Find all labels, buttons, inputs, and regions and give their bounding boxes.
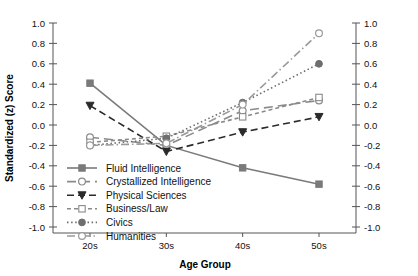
legend-item[interactable]: Fluid Intelligence [67, 163, 181, 174]
data-point-open-circle [87, 142, 94, 149]
data-point-open-square [79, 206, 85, 212]
y-tick-label-left: 0.2 [32, 99, 45, 110]
legend-label: Humanities [106, 231, 156, 242]
chart-legend: Fluid IntelligenceCrystallized Intellige… [67, 163, 211, 242]
legend-item[interactable]: Humanities [67, 231, 156, 242]
legend-item[interactable]: Crystallized Intelligence [67, 176, 211, 187]
y-tick-label-right: -0.2 [364, 140, 380, 151]
legend-item[interactable]: Civics [67, 217, 133, 228]
data-point-open-square [316, 94, 322, 100]
data-point-open-circle [316, 30, 323, 37]
y-tick-label-left: 0.4 [32, 79, 45, 90]
x-tick-label: 50s [311, 240, 327, 251]
y-tick-label-left: 0.6 [32, 58, 45, 69]
y-tick-label-right: 0.0 [364, 120, 377, 131]
x-tick-label: 40s [235, 240, 251, 251]
data-point-filled-square [316, 181, 322, 187]
y-tick-label-left: 0.0 [32, 120, 45, 131]
legend-label: Civics [106, 217, 133, 228]
legend-label: Physical Sciences [106, 190, 187, 201]
data-point-open-circle [79, 233, 86, 240]
y-tick-label-left: 0.8 [32, 38, 45, 49]
legend-label: Crystallized Intelligence [106, 176, 211, 187]
data-point-open-circle [239, 101, 246, 108]
y-tick-label-right: -0.8 [364, 201, 380, 212]
y-tick-label-right: -1.0 [364, 222, 380, 233]
data-point-filled-triangle-down [162, 148, 170, 155]
y-tick-label-right: -0.4 [364, 160, 380, 171]
data-point-filled-square [79, 165, 85, 171]
y-tick-label-right: 0.2 [364, 99, 377, 110]
data-point-open-circle [163, 140, 170, 147]
legend-item[interactable]: Physical Sciences [67, 190, 187, 201]
y-tick-label-left: -0.8 [29, 201, 45, 212]
y-tick-label-left: -1.0 [29, 222, 45, 233]
y-tick-label-right: 0.4 [364, 79, 377, 90]
data-point-open-circle [79, 178, 86, 185]
legend-label: Fluid Intelligence [106, 163, 181, 174]
chart-container: 1.00.80.60.40.20.0-0.2-0.4-0.6-0.8-1.0 1… [0, 0, 418, 276]
series-civics [87, 60, 323, 148]
legend-item[interactable]: Business/Law [67, 203, 168, 214]
series-humanities [87, 30, 323, 149]
data-point-open-square [239, 114, 245, 120]
y-tick-label-right: -0.6 [364, 181, 380, 192]
y-tick-label-left: -0.6 [29, 181, 45, 192]
x-tick-label: 20s [82, 240, 98, 251]
data-point-filled-square [239, 165, 245, 171]
data-point-filled-square [87, 80, 93, 86]
data-point-filled-triangle-down [86, 102, 94, 109]
y-tick-label-right: 1.0 [364, 18, 377, 29]
data-point-filled-circle [79, 219, 86, 226]
x-tick-label: 30s [159, 240, 175, 251]
y-axis-title: Standardized (z) Score [4, 74, 15, 182]
y-tick-label-left: 1.0 [32, 18, 45, 29]
x-axis-title: Age Group [179, 259, 231, 270]
legend-label: Business/Law [106, 203, 168, 214]
line-chart: 1.00.80.60.40.20.0-0.2-0.4-0.6-0.8-1.0 1… [0, 0, 418, 276]
y-tick-label-left: -0.4 [29, 160, 45, 171]
y-tick-label-right: 0.6 [364, 58, 377, 69]
data-point-filled-circle [316, 60, 323, 67]
y-tick-label-left: -0.2 [29, 140, 45, 151]
y-tick-label-right: 0.8 [364, 38, 377, 49]
